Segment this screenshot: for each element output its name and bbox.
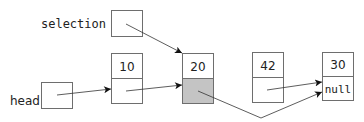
node-30: 30 null — [323, 53, 354, 101]
node-10: 10 — [112, 54, 143, 104]
node-value: 42 — [260, 59, 275, 73]
selection-box — [112, 11, 143, 37]
null-label: null — [325, 83, 352, 96]
node-42: 42 — [253, 53, 284, 103]
node-value: 30 — [330, 58, 345, 72]
head-label: head — [10, 94, 40, 108]
node-value: 20 — [190, 60, 205, 74]
head-box — [42, 83, 73, 109]
selection-label: selection — [41, 17, 106, 31]
head-pointer: head — [10, 83, 73, 109]
selection-pointer: selection — [41, 11, 143, 37]
node-value: 10 — [119, 60, 134, 74]
arrow-selection-to-node-20 — [126, 24, 182, 53]
linked-list-diagram: selection head 10 20 42 30 null — [0, 0, 364, 122]
